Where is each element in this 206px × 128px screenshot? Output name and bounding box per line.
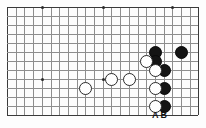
board-gridline-horizontal bbox=[7, 97, 198, 98]
white-stone bbox=[105, 73, 118, 86]
white-stone bbox=[149, 64, 162, 77]
black-stone bbox=[175, 46, 188, 59]
board-gridline-horizontal bbox=[7, 16, 198, 17]
board-gridline-horizontal bbox=[7, 115, 198, 116]
board-gridline-horizontal bbox=[7, 25, 198, 26]
board-gridline-horizontal bbox=[7, 43, 198, 44]
hoshi-star-point bbox=[102, 78, 105, 81]
board-gridline-horizontal bbox=[7, 34, 198, 35]
board-gridline-horizontal bbox=[7, 61, 198, 62]
hoshi-star-point bbox=[171, 6, 174, 9]
go-diagram-figure: AB bbox=[0, 0, 206, 128]
go-board: AB bbox=[0, 0, 206, 128]
white-stone bbox=[149, 82, 162, 95]
point-label-b: B bbox=[161, 111, 168, 120]
white-stone bbox=[79, 82, 92, 95]
point-label-a: A bbox=[152, 111, 159, 120]
white-stone bbox=[123, 73, 136, 86]
hoshi-star-point bbox=[41, 6, 44, 9]
board-gridline-vertical bbox=[198, 7, 199, 115]
hoshi-star-point bbox=[41, 78, 44, 81]
board-gridline-horizontal bbox=[7, 52, 198, 53]
hoshi-star-point bbox=[102, 6, 105, 9]
